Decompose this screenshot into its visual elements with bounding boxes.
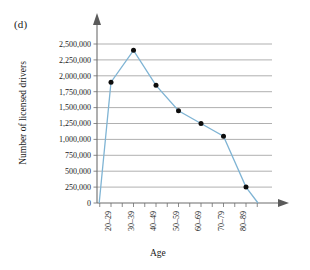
x-axis-tick-labels: 20–2930–3940–4950–5960–6970–7980–89 xyxy=(104,211,248,231)
x-tick-label: 20–29 xyxy=(104,211,113,231)
y-tick-label: 1,000,000 xyxy=(59,135,91,144)
x-axis-tickmarks xyxy=(100,203,258,207)
y-tick-label: 2,500,000 xyxy=(59,40,91,49)
data-point-marker xyxy=(154,83,159,88)
data-point-marker xyxy=(244,185,249,190)
y-tick-label: 250,000 xyxy=(65,183,91,192)
x-axis-arrow-icon xyxy=(278,199,289,207)
y-tick-label: 2,250,000 xyxy=(59,56,91,65)
y-tick-label: 2,000,000 xyxy=(59,72,91,81)
data-point-marker xyxy=(109,80,114,85)
data-point-marker xyxy=(176,108,181,113)
y-tick-label: 750,000 xyxy=(65,151,91,160)
x-tick-label: 30–39 xyxy=(127,211,136,231)
data-point-marker xyxy=(199,121,204,126)
y-tick-label: 0 xyxy=(87,199,91,208)
y-tick-label: 1,750,000 xyxy=(59,88,91,97)
y-tick-label: 500,000 xyxy=(65,167,91,176)
data-series-line xyxy=(99,50,258,203)
y-axis-arrow-icon xyxy=(93,13,101,25)
y-tick-label: 1,250,000 xyxy=(59,119,91,128)
x-tick-label: 60–69 xyxy=(194,211,203,231)
x-tick-label: 70–79 xyxy=(217,211,226,231)
y-axis-tick-labels: 0250,000500,000750,0001,000,0001,250,000… xyxy=(59,40,91,208)
data-point-marker xyxy=(131,48,136,53)
x-tick-label: 40–49 xyxy=(149,211,158,231)
x-tick-label: 80–89 xyxy=(239,211,248,231)
data-point-marker xyxy=(221,134,226,139)
x-tick-label: 50–59 xyxy=(172,211,181,231)
data-point-markers xyxy=(109,48,249,190)
figure-panel-d: (d) Number of licensed drivers Age 0250,… xyxy=(0,0,310,270)
y-tick-label: 1,500,000 xyxy=(59,103,91,112)
line-chart-plot: 0250,000500,000750,0001,000,0001,250,000… xyxy=(0,0,310,270)
